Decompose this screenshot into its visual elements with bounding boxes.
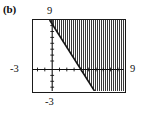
y-axis-min-label: -3: [45, 97, 54, 108]
x-axis-min-label: -3: [10, 64, 19, 75]
plot-frame: [32, 19, 126, 93]
y-axis-max-label: 9: [47, 6, 52, 17]
y-axis: [50, 20, 54, 91]
x-axis-max-label: 9: [130, 64, 135, 75]
figure-panel-b: (b): [0, 0, 146, 116]
panel-label: (b): [3, 4, 16, 15]
x-axis: [33, 68, 124, 72]
shaded-region: [33, 20, 124, 91]
plot-canvas: [33, 20, 124, 91]
